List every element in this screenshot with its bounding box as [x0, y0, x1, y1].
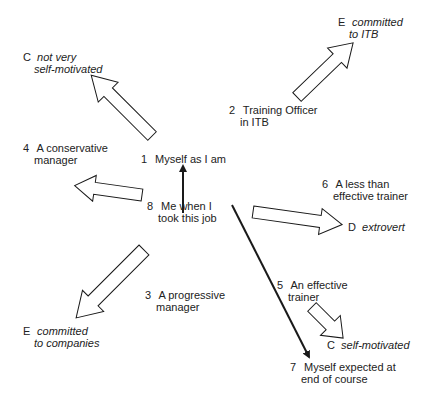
node-4-label: 4 A conservative manager	[23, 142, 108, 166]
construct-not-self-motivated: C not very self-motivated	[23, 51, 102, 75]
block-arrow-to-committed-companies	[66, 239, 155, 328]
node-5-label: 5 An effective trainer	[277, 279, 348, 303]
node-7-label: 7 Myself expected at end of course	[290, 361, 396, 385]
node-3-label: 3 A progressive manager	[145, 289, 225, 313]
block-arrow-to-extrovert	[251, 199, 344, 237]
construct-committed-companies: E committed to companies	[23, 325, 99, 349]
node-6-label: 6 A less than effective trainer	[322, 178, 408, 202]
construct-self-motivated: C self-motivated	[327, 339, 410, 351]
block-arrow-to-committed-itb	[287, 33, 363, 107]
construct-committed-itb: E committed to ITB	[338, 16, 403, 40]
block-arrow-to-not-self-motivated	[81, 65, 162, 146]
construct-extrovert: D extrovert	[348, 221, 405, 233]
node-2-label: 2 Training Officer in ITB	[229, 104, 317, 128]
block-arrow-to-conservative-manager	[73, 173, 144, 208]
node-8-label: 8 Me when I took this job	[147, 200, 217, 224]
node-1-label: 1 Myself as I am	[141, 153, 226, 165]
